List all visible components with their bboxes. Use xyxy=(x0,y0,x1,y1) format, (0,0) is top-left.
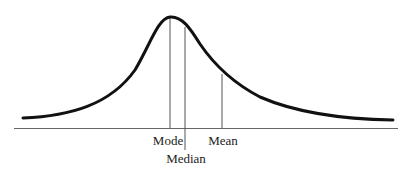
mean-label: Mean xyxy=(208,133,238,148)
median-label: Median xyxy=(166,151,206,166)
skewed-distribution-diagram: Mode Median Mean xyxy=(0,0,409,175)
mode-label: Mode xyxy=(153,133,184,148)
distribution-curve xyxy=(23,17,393,120)
